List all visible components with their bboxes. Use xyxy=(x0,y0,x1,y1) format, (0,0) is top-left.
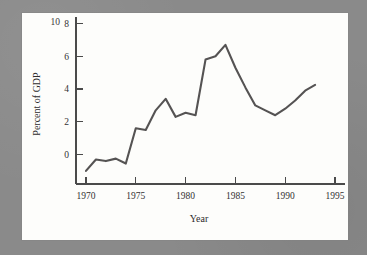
y-tick-label-group: 02468 xyxy=(64,19,69,160)
x-tick-label: 1995 xyxy=(326,191,345,201)
y-tick-label: 0 xyxy=(64,150,69,160)
y-tick-label: 8 xyxy=(64,19,69,29)
x-tick-label-group: 197019751980198519901995 xyxy=(76,191,344,201)
y-axis: 02468 10 xyxy=(51,17,84,184)
x-tick-label: 1990 xyxy=(276,191,295,201)
x-axis-title: Year xyxy=(190,213,209,224)
data-series-line xyxy=(86,45,315,171)
x-tick-label: 1970 xyxy=(76,191,95,201)
x-tick-label: 1985 xyxy=(226,191,245,201)
y-tick-label: 2 xyxy=(64,117,69,127)
y-tick-label: 4 xyxy=(64,84,69,94)
figure-root: 02468 10 197019751980198519901995 Year P… xyxy=(0,0,367,255)
clipped-top-tick-label: 10 xyxy=(51,17,61,27)
y-axis-title: Percent of GDP xyxy=(31,72,42,136)
x-tick-label: 1975 xyxy=(126,191,145,201)
x-tick-group xyxy=(86,177,335,184)
x-axis: 197019751980198519901995 xyxy=(76,177,345,201)
x-tick-label: 1980 xyxy=(176,191,195,201)
line-chart: 02468 10 197019751980198519901995 Year P… xyxy=(0,0,367,255)
y-tick-label: 6 xyxy=(64,52,69,62)
y-tick-group xyxy=(76,24,83,155)
